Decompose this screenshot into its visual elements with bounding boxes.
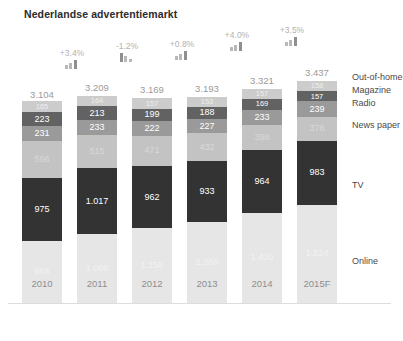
segment-value-label: 1.017 <box>86 197 109 206</box>
stacked-bar[interactable]: 165223231566975964 <box>22 101 62 303</box>
axis-baseline <box>8 303 391 304</box>
segment-value-label: 158 <box>311 82 324 90</box>
segment-value-label: 975 <box>34 205 49 214</box>
bar-segment-online[interactable]: 1.260 <box>187 222 227 303</box>
stacked-bar[interactable]: 1571992224719621.158 <box>132 98 172 303</box>
legend-item-magazine[interactable]: Magazine <box>352 85 391 95</box>
segment-value-label: 376 <box>309 124 324 133</box>
bar-segment-online[interactable]: 1.068 <box>77 234 117 303</box>
bar-segment-news-paper[interactable]: 376 <box>297 117 337 141</box>
bar-segment-online[interactable]: 1.158 <box>132 228 172 303</box>
segment-value-label: 1.260 <box>196 258 219 267</box>
bar-segment-radio[interactable]: 231 <box>22 126 62 141</box>
bar-segment-radio[interactable]: 233 <box>242 110 282 125</box>
segment-value-label: 398 <box>254 133 269 142</box>
growth-percentage-label: +3.4% <box>42 48 102 58</box>
growth-percentage-label: +3.5% <box>262 25 322 35</box>
segment-value-label: 157 <box>146 100 159 108</box>
bar-segment-online[interactable]: 964 <box>22 241 62 303</box>
segment-value-label: 157 <box>311 93 324 101</box>
x-axis-label: 2015F <box>291 278 343 289</box>
bar-segment-tv[interactable]: 1.017 <box>77 168 117 234</box>
segment-value-label: 233 <box>89 123 104 132</box>
segment-value-label: 188 <box>199 108 214 117</box>
bar-total-label: 3.169 <box>126 84 178 95</box>
bar-segment-out-of-home[interactable]: 153 <box>187 97 227 107</box>
segment-value-label: 239 <box>309 105 324 114</box>
bar-total-label: 3.209 <box>71 82 123 93</box>
bar-segment-radio[interactable]: 222 <box>132 121 172 135</box>
stacked-bar[interactable]: 1531882274329331.260 <box>187 97 227 303</box>
bar-segment-magazine[interactable]: 213 <box>77 106 117 120</box>
legend-item-radio[interactable]: Radio <box>352 98 376 108</box>
segment-value-label: 233 <box>254 113 269 122</box>
segment-value-label: 566 <box>34 155 49 164</box>
bar-segment-radio[interactable]: 233 <box>77 120 117 135</box>
bar-segment-news-paper[interactable]: 398 <box>242 125 282 151</box>
bar-segment-magazine[interactable]: 188 <box>187 107 227 119</box>
segment-value-label: 1.524 <box>306 249 329 258</box>
growth-callout: +3.4% <box>42 48 102 69</box>
legend-item-out-of-home[interactable]: Out-of-home <box>352 72 403 82</box>
segment-value-label: 1.400 <box>251 253 274 262</box>
bar-column: 1571992224719621.1583.1692012 <box>132 98 172 303</box>
segment-value-label: 223 <box>34 115 49 124</box>
bar-segment-news-paper[interactable]: 471 <box>132 136 172 166</box>
bar-segment-out-of-home[interactable]: 158 <box>297 81 337 91</box>
bar-segment-tv[interactable]: 933 <box>187 161 227 221</box>
segment-value-label: 157 <box>256 90 269 98</box>
bar-segment-magazine[interactable]: 199 <box>132 109 172 122</box>
segment-value-label: 964 <box>34 267 49 276</box>
x-axis-label: 2012 <box>126 278 178 289</box>
bar-segment-tv[interactable]: 962 <box>132 166 172 228</box>
bar-segment-news-paper[interactable]: 515 <box>77 135 117 168</box>
bar-segment-radio[interactable]: 227 <box>187 119 227 134</box>
bar-segment-tv[interactable]: 964 <box>242 150 282 212</box>
bar-segment-out-of-home[interactable]: 165 <box>22 101 62 112</box>
stacked-bar[interactable]: 1642132335151.0171.068 <box>77 96 117 303</box>
bar-segment-magazine[interactable]: 157 <box>297 91 337 101</box>
segment-value-label: 964 <box>254 177 269 186</box>
bar-total-label: 3.321 <box>236 75 288 86</box>
bar-chart-up-icon <box>285 37 300 46</box>
legend-item-newspaper[interactable]: News paper <box>352 120 400 130</box>
stacked-bar[interactable]: 1571692333989641.400 <box>242 89 282 303</box>
bar-total-label: 3.437 <box>291 67 343 78</box>
segment-value-label: 213 <box>89 109 104 118</box>
growth-percentage-label: +4.0% <box>207 30 267 40</box>
bar-segment-tv[interactable]: 983 <box>297 141 337 204</box>
bar-segment-online[interactable]: 1.400 <box>242 213 282 303</box>
bar-column: 1531882274329331.2603.1932013 <box>187 97 227 303</box>
bar-segment-news-paper[interactable]: 566 <box>22 141 62 178</box>
legend-item-online[interactable]: Online <box>352 256 378 266</box>
segment-value-label: 1.158 <box>141 261 164 270</box>
x-axis-label: 2013 <box>181 278 233 289</box>
stacked-bar[interactable]: 1581572393769831.524 <box>297 81 337 303</box>
bar-segment-out-of-home[interactable]: 157 <box>242 89 282 99</box>
bar-total-label: 3.104 <box>16 89 68 100</box>
bar-total-label: 3.193 <box>181 83 233 94</box>
bar-chart-up-icon <box>230 42 245 51</box>
segment-value-label: 164 <box>91 97 104 105</box>
segment-value-label: 471 <box>144 146 159 155</box>
bar-segment-out-of-home[interactable]: 164 <box>77 96 117 107</box>
segment-value-label: 1.068 <box>86 264 109 273</box>
bar-column: 1652232315669759643.1042010 <box>22 101 62 303</box>
bar-segment-magazine[interactable]: 169 <box>242 99 282 110</box>
bar-segment-magazine[interactable]: 223 <box>22 112 62 126</box>
bar-chart-down-icon <box>120 53 135 62</box>
segment-value-label: 169 <box>256 100 269 108</box>
growth-callout: +3.5% <box>262 25 322 46</box>
legend-item-tv[interactable]: TV <box>352 180 364 190</box>
growth-percentage-label: -1.2% <box>97 41 157 51</box>
bar-segment-tv[interactable]: 975 <box>22 178 62 241</box>
bar-column: 1581572393769831.5243.4372015F <box>297 81 337 303</box>
bar-segment-news-paper[interactable]: 432 <box>187 133 227 161</box>
growth-callout: -1.2% <box>97 41 157 62</box>
segment-value-label: 199 <box>144 110 159 119</box>
bar-segment-radio[interactable]: 239 <box>297 101 337 116</box>
bar-segment-out-of-home[interactable]: 157 <box>132 98 172 108</box>
bar-chart-up-icon <box>175 51 190 60</box>
